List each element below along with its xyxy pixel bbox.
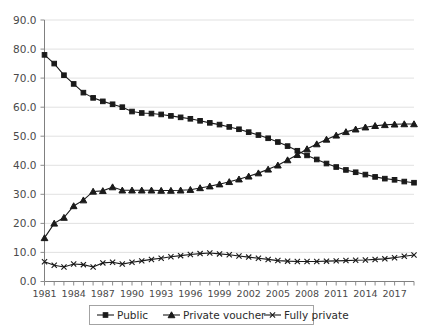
data-point-marker-square (383, 176, 388, 181)
data-point-marker-square (188, 116, 193, 121)
data-point-marker-square (305, 153, 310, 158)
data-point-marker-square (227, 125, 232, 130)
data-point-marker-square (149, 111, 154, 116)
data-point-marker-square (52, 61, 57, 66)
x-tick-label: 1981 (32, 288, 56, 299)
data-point-marker-triangle (313, 141, 320, 147)
y-tick-label: 40.0 (13, 159, 36, 171)
data-point-marker-square (266, 136, 271, 141)
data-point-marker-square (402, 179, 407, 184)
data-point-marker-square (285, 144, 290, 149)
y-tick-label: 60.0 (13, 101, 36, 113)
data-point-marker-square (276, 140, 281, 145)
y-tick-label: 10.0 (13, 246, 36, 258)
data-point-marker-triangle (255, 170, 262, 176)
series-fully-private (42, 250, 417, 269)
data-point-marker-square (103, 313, 108, 318)
data-point-marker-triangle (109, 184, 116, 190)
x-tick-label: 2011 (324, 288, 348, 299)
legend-label: Private voucher (183, 309, 266, 321)
x-tick-label: 1993 (149, 288, 173, 299)
data-point-marker-square (42, 53, 47, 58)
x-axis-tick-labels: 1981198419871990199319961999200220052008… (32, 288, 406, 299)
y-tick-label: 20.0 (13, 217, 36, 229)
y-tick-label: 90.0 (13, 14, 36, 26)
chart-canvas: 0.010.020.030.040.050.060.070.080.090.0 … (0, 0, 423, 332)
data-point-marker-square (110, 102, 115, 107)
data-point-marker-square (71, 82, 76, 87)
data-point-marker-triangle (41, 235, 48, 241)
x-tick-label: 2005 (266, 288, 290, 299)
x-axis-ticks (45, 282, 415, 286)
data-point-marker-square (139, 111, 144, 116)
data-point-marker-square (178, 115, 183, 120)
x-tick-label: 2014 (353, 288, 377, 299)
y-axis-tick-labels: 0.010.020.030.040.050.060.070.080.090.0 (13, 14, 36, 288)
data-point-marker-square (324, 161, 329, 166)
x-tick-label: 1987 (91, 288, 115, 299)
gridlines (45, 20, 415, 252)
legend-label: Public (117, 309, 148, 321)
data-point-marker-square (237, 127, 242, 132)
data-point-marker-square (62, 73, 67, 78)
y-tick-label: 50.0 (13, 130, 36, 142)
x-tick-label: 2017 (383, 288, 407, 299)
data-point-marker-triangle (304, 146, 311, 152)
data-point-marker-square (198, 119, 203, 124)
data-point-marker-square (412, 180, 417, 185)
data-point-marker-square (246, 130, 251, 135)
data-point-marker-triangle (284, 157, 291, 163)
data-point-marker-square (101, 99, 106, 104)
x-tick-label: 1990 (120, 288, 144, 299)
data-point-marker-square (314, 157, 319, 162)
data-series-layer (41, 53, 417, 270)
y-tick-label: 30.0 (13, 188, 36, 200)
series-line (45, 55, 415, 183)
x-tick-label: 1984 (62, 288, 86, 299)
data-point-marker-square (159, 112, 164, 117)
x-tick-label: 2002 (237, 288, 261, 299)
data-point-marker-square (217, 122, 222, 127)
data-point-marker-square (344, 168, 349, 173)
x-tick-label: 1999 (207, 288, 231, 299)
legend-label: Fully private (284, 309, 349, 321)
chart-legend: PublicPrivate voucherFully private (90, 306, 349, 325)
y-axis-ticks (41, 20, 45, 282)
data-point-marker-triangle (323, 136, 330, 142)
data-point-marker-square (256, 133, 261, 138)
y-tick-label: 70.0 (13, 72, 36, 84)
data-point-marker-triangle (70, 203, 77, 209)
data-point-marker-triangle (333, 132, 340, 138)
data-point-marker-square (208, 121, 213, 126)
data-point-marker-square (91, 96, 96, 101)
line-chart: 0.010.020.030.040.050.060.070.080.090.0 … (0, 0, 423, 332)
data-point-marker-square (120, 105, 125, 110)
data-point-marker-square (353, 170, 358, 175)
data-point-marker-square (169, 114, 174, 119)
y-tick-label: 0.0 (20, 275, 37, 287)
data-point-marker-square (373, 175, 378, 180)
data-point-marker-square (363, 172, 368, 177)
data-point-marker-square (334, 165, 339, 170)
y-tick-label: 80.0 (13, 43, 36, 55)
data-point-marker-square (81, 90, 86, 95)
x-tick-label: 1996 (178, 288, 202, 299)
data-point-marker-square (392, 178, 397, 183)
x-tick-label: 2008 (295, 288, 319, 299)
series-private-voucher (41, 121, 417, 241)
data-point-marker-triangle (265, 166, 272, 172)
data-point-marker-square (130, 109, 135, 114)
